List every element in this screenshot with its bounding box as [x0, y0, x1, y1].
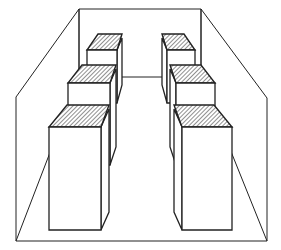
cabinet-right-front	[174, 105, 232, 230]
cabinet-side-face	[174, 109, 182, 230]
cabinet-top-hatched	[87, 34, 122, 50]
room-perspective-drawing	[0, 0, 281, 250]
cabinet-group	[49, 34, 232, 230]
cabinet-side-face	[110, 69, 116, 165]
cabinet-top-hatched	[162, 34, 195, 50]
cabinet-front-face	[49, 127, 101, 230]
cabinet-top-hatched	[49, 105, 109, 127]
cabinet-top-hatched	[170, 65, 215, 83]
cabinet-side-face	[101, 109, 109, 230]
cabinet-top-hatched	[68, 65, 116, 83]
cabinet-front-face	[182, 127, 232, 230]
cabinet-left-front	[49, 105, 109, 230]
cabinet-top-hatched	[174, 105, 232, 127]
room-diagram	[0, 0, 281, 250]
